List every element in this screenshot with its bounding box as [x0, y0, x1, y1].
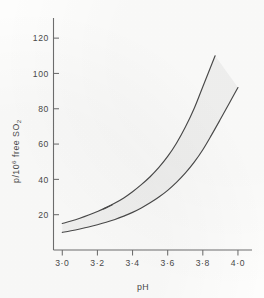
- y-axis-ticks: [54, 38, 60, 215]
- y-axis-tick-label: 20: [38, 210, 49, 220]
- x-axis-tick-label: 3·8: [196, 258, 210, 268]
- so2-ph-chart: 20406080100120 3·03·23·43·63·84·0 p/106 …: [0, 0, 264, 298]
- x-axis-tick-labels: 3·03·23·43·63·84·0: [55, 258, 245, 268]
- shaded-band-region: [62, 56, 238, 233]
- y-axis-tick-label: 80: [38, 104, 49, 114]
- y-axis-tick-label: 40: [38, 175, 49, 185]
- y-axis-title-subscript: 2: [15, 119, 22, 123]
- x-axis-tick-label: 3·2: [90, 258, 104, 268]
- x-axis-ticks: [62, 250, 238, 256]
- y-axis-tick-label: 120: [33, 33, 49, 43]
- y-axis-title-base: p/10: [11, 164, 21, 183]
- y-axis-tick-labels: 20406080100120: [33, 33, 49, 220]
- x-axis-tick-label: 3·6: [161, 258, 175, 268]
- x-axis-tick-label: 3·4: [125, 258, 139, 268]
- svg-text:p/106 free SO2: p/106 free SO2: [10, 119, 22, 183]
- y-axis-title: p/106 free SO2: [10, 119, 22, 183]
- chart-figure: 20406080100120 3·03·23·43·63·84·0 p/106 …: [0, 0, 264, 298]
- y-axis-title-mid: free SO: [11, 123, 21, 160]
- x-axis-title: pH: [137, 282, 149, 292]
- y-axis-tick-label: 100: [33, 69, 49, 79]
- x-axis-tick-label: 4·0: [231, 258, 245, 268]
- y-axis-tick-label: 60: [38, 139, 49, 149]
- x-axis-tick-label: 3·0: [55, 258, 69, 268]
